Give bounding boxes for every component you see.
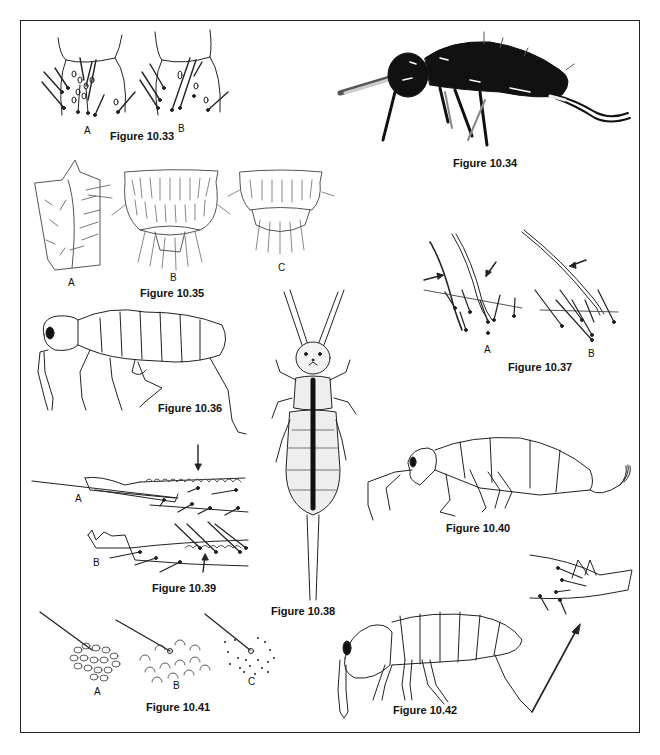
figure-10-39-a-drawing bbox=[32, 445, 248, 515]
figure-10-35-b-drawing bbox=[112, 170, 230, 270]
figure-10-42-drawing bbox=[338, 555, 632, 718]
figure-10-35-c-drawing bbox=[228, 170, 334, 254]
figure-10-41-caption: Figure 10.41 bbox=[146, 701, 210, 713]
figure-10-39-panel-b: B bbox=[93, 557, 100, 568]
figure-10-37-panel-b: B bbox=[588, 348, 595, 359]
figure-10-36-caption: Figure 10.36 bbox=[158, 402, 222, 414]
figure-10-41-panel-c: C bbox=[248, 676, 255, 687]
figure-10-41-a-drawing bbox=[40, 612, 120, 681]
figure-10-41-b-drawing bbox=[116, 620, 210, 682]
figure-10-37-a-drawing bbox=[424, 234, 522, 335]
figure-10-33-a-drawing bbox=[42, 35, 135, 117]
figure-10-41-panel-a: A bbox=[94, 686, 101, 697]
figure-10-35-a-drawing bbox=[35, 160, 112, 270]
figure-10-34-drawing bbox=[340, 32, 630, 145]
figure-10-39-caption: Figure 10.39 bbox=[152, 582, 216, 594]
figure-10-39-b-drawing bbox=[88, 522, 248, 572]
figure-10-35-panel-c: C bbox=[278, 262, 285, 273]
figure-10-37-b-drawing bbox=[522, 230, 618, 342]
figure-10-41-panel-b: B bbox=[173, 680, 180, 691]
figure-10-35-caption: Figure 10.35 bbox=[140, 287, 204, 299]
figure-10-38-drawing bbox=[272, 290, 356, 600]
figure-10-35-panel-a: A bbox=[68, 277, 75, 288]
figure-10-38-caption: Figure 10.38 bbox=[271, 605, 335, 617]
figure-10-35-panel-b: B bbox=[170, 272, 177, 283]
figure-10-33-panel-a: A bbox=[84, 125, 91, 136]
figure-10-40-drawing bbox=[368, 438, 630, 521]
figure-10-36-drawing bbox=[38, 310, 246, 434]
plate-illustrations bbox=[0, 0, 660, 755]
figure-10-33-b-drawing bbox=[140, 30, 228, 115]
figure-10-34-caption: Figure 10.34 bbox=[453, 157, 517, 169]
figure-10-42-caption: Figure 10.42 bbox=[393, 704, 457, 716]
figure-10-33-caption: Figure 10.33 bbox=[110, 130, 174, 142]
figure-10-33-panel-b: B bbox=[178, 123, 185, 134]
figure-10-37-caption: Figure 10.37 bbox=[508, 361, 572, 373]
figure-10-41-c-drawing bbox=[205, 614, 275, 675]
figure-10-37-panel-a: A bbox=[484, 344, 491, 355]
figure-10-40-caption: Figure 10.40 bbox=[446, 522, 510, 534]
figure-10-39-panel-a: A bbox=[75, 493, 82, 504]
